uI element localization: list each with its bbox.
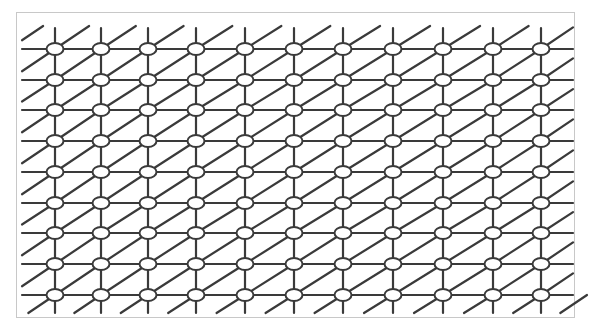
diagonal-edge bbox=[294, 80, 343, 110]
lattice-node bbox=[335, 135, 352, 147]
lattice-node bbox=[237, 166, 254, 178]
lattice-node bbox=[435, 43, 452, 55]
diagonal-edge bbox=[148, 264, 196, 295]
diagonal-edge bbox=[343, 203, 393, 233]
lattice-node bbox=[485, 43, 502, 55]
lattice-node bbox=[485, 289, 502, 301]
lattice-node bbox=[286, 197, 303, 209]
lattice-node bbox=[188, 43, 205, 55]
lattice-node bbox=[140, 197, 157, 209]
lattice-node bbox=[485, 135, 502, 147]
lattice-node bbox=[237, 104, 254, 116]
lattice-node bbox=[47, 166, 64, 178]
lattice-node bbox=[140, 104, 157, 116]
diagonal-edge bbox=[393, 264, 443, 295]
lattice-node bbox=[140, 166, 157, 178]
lattice-node bbox=[485, 197, 502, 209]
diagonal-edge bbox=[245, 264, 294, 295]
diagonal-edge bbox=[294, 141, 343, 172]
lattice-node bbox=[188, 289, 205, 301]
diagonal-edge bbox=[245, 233, 294, 264]
diagonal-edge bbox=[343, 80, 393, 110]
diagonal-edge bbox=[148, 49, 196, 80]
lattice-node bbox=[485, 166, 502, 178]
lattice-node bbox=[188, 74, 205, 86]
lattice-node bbox=[385, 258, 402, 270]
lattice-node bbox=[385, 289, 402, 301]
lattice-node bbox=[47, 43, 64, 55]
lattice-node bbox=[93, 43, 110, 55]
lattice-node bbox=[237, 227, 254, 239]
diagonal-edge bbox=[393, 80, 443, 110]
diagonal-edge bbox=[393, 172, 443, 203]
lattice-node bbox=[385, 104, 402, 116]
lattice-node bbox=[385, 135, 402, 147]
lattice-node bbox=[188, 227, 205, 239]
lattice-node bbox=[286, 74, 303, 86]
lattice-node bbox=[140, 258, 157, 270]
lattice-node bbox=[140, 227, 157, 239]
diagonal-edge bbox=[294, 233, 343, 264]
lattice-node bbox=[435, 289, 452, 301]
diagonal-edge bbox=[393, 110, 443, 141]
lattice-node bbox=[485, 104, 502, 116]
lattice-node bbox=[93, 166, 110, 178]
diagonal-edge bbox=[294, 110, 343, 141]
lattice-node bbox=[533, 197, 550, 209]
lattice-node bbox=[140, 43, 157, 55]
diagonal-edge bbox=[22, 26, 43, 40]
diagonal-edge bbox=[196, 141, 245, 172]
diagonal-edge bbox=[493, 233, 541, 264]
lattice-node bbox=[140, 289, 157, 301]
lattice-node bbox=[485, 258, 502, 270]
lattice-node bbox=[533, 258, 550, 270]
lattice-node bbox=[93, 135, 110, 147]
lattice-node bbox=[188, 166, 205, 178]
lattice-node bbox=[47, 74, 64, 86]
diagonal-edge bbox=[443, 141, 493, 172]
diagonal-edge bbox=[343, 141, 393, 172]
lattice-node bbox=[385, 43, 402, 55]
lattice-node bbox=[188, 197, 205, 209]
diagonal-edge bbox=[196, 203, 245, 233]
diagonal-edge bbox=[245, 49, 294, 80]
diagonal-edge bbox=[493, 49, 541, 80]
lattice-node bbox=[188, 135, 205, 147]
diagonal-edge bbox=[560, 295, 587, 313]
lattice-node bbox=[286, 43, 303, 55]
lattice-node bbox=[286, 104, 303, 116]
diagonal-edge bbox=[245, 110, 294, 141]
diagonal-edge bbox=[245, 172, 294, 203]
diagonal-edge bbox=[393, 141, 443, 172]
lattice-node bbox=[188, 104, 205, 116]
diagonal-edge bbox=[148, 233, 196, 264]
lattice-node bbox=[140, 74, 157, 86]
diagonal-edge bbox=[196, 110, 245, 141]
lattice-node bbox=[286, 166, 303, 178]
lattice-node bbox=[335, 227, 352, 239]
diagonal-edge bbox=[245, 141, 294, 172]
diagonal-edge bbox=[443, 264, 493, 295]
lattice-node bbox=[286, 135, 303, 147]
lattice-node bbox=[385, 227, 402, 239]
diagonal-edge bbox=[343, 264, 393, 295]
diagonal-edge bbox=[245, 80, 294, 110]
lattice-node bbox=[485, 74, 502, 86]
diagonal-edge bbox=[443, 203, 493, 233]
diagonal-edge bbox=[196, 49, 245, 80]
lattice-node bbox=[435, 74, 452, 86]
lattice-node bbox=[335, 197, 352, 209]
lattice-node bbox=[435, 258, 452, 270]
lattice-node bbox=[93, 74, 110, 86]
lattice-node bbox=[47, 227, 64, 239]
diagonal-edge bbox=[294, 264, 343, 295]
lattice-node bbox=[435, 104, 452, 116]
diagonal-edge bbox=[294, 203, 343, 233]
lattice-node bbox=[385, 74, 402, 86]
lattice-node bbox=[47, 135, 64, 147]
diagonal-edge bbox=[443, 110, 493, 141]
lattice-node bbox=[47, 258, 64, 270]
diagonal-edge bbox=[493, 141, 541, 172]
diagonal-edge bbox=[196, 172, 245, 203]
diagonal-edge bbox=[196, 80, 245, 110]
